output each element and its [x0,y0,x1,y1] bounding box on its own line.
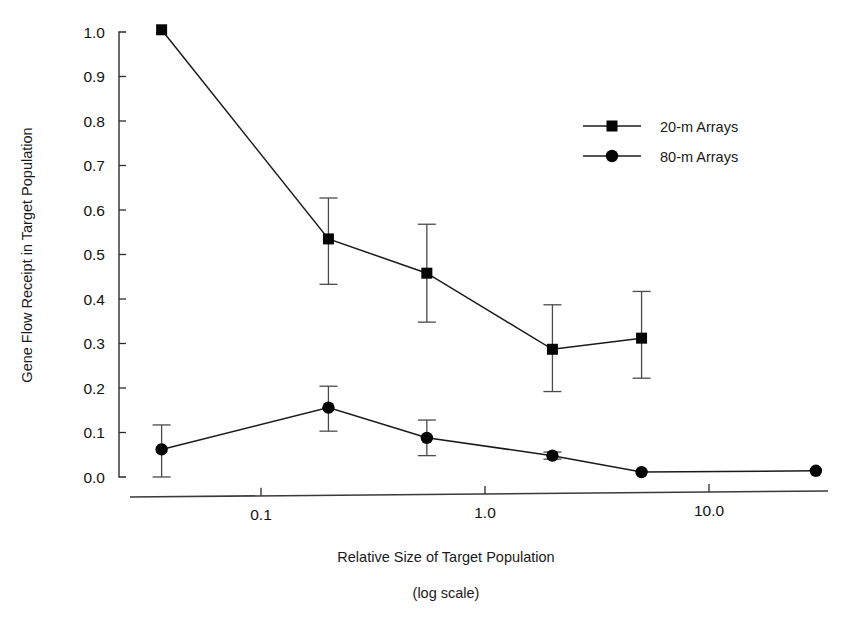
series-80m-arrays [153,386,822,478]
y-tick-label: 1.0 [83,24,105,41]
x-axis: 0.11.010.0 [130,484,828,523]
series-20m-arrays [156,24,650,391]
y-axis-tick-labels: 0.00.10.20.30.40.50.60.70.80.91.0 [83,24,105,486]
y-tick-label: 0.3 [83,335,105,352]
y-axis-tick-marks [119,77,126,433]
x-tick-label: 10.0 [694,502,725,519]
x-tick-label: 1.0 [474,504,496,521]
data-point-square [547,344,558,355]
data-point-circle [546,449,558,461]
data-point-square [421,268,432,279]
y-tick-label: 0.5 [83,246,105,263]
y-axis-title: Gene Flow Receipt in Target Population [19,127,35,382]
legend-item: 20-m Arrays [583,119,738,135]
x-axis-subtitle: (log scale) [413,585,480,601]
legend-marker-square [607,121,618,132]
y-tick-label: 0.4 [83,291,105,308]
y-axis: 0.00.10.20.30.40.50.60.70.80.91.0 [83,24,126,486]
data-point-circle [421,432,433,444]
data-point-square [323,233,334,244]
legend-label: 20-m Arrays [660,119,738,135]
x-tick-label: 0.1 [250,506,272,523]
legend-item: 80-m Arrays [583,149,738,165]
legend-label: 80-m Arrays [660,149,738,165]
y-tick-label: 0.6 [83,202,105,219]
series-line [162,30,642,350]
y-tick-label: 0.0 [83,469,105,486]
legend-marker-circle [606,150,618,162]
x-axis-tick-labels: 0.11.010.0 [250,502,724,523]
data-series-layer [153,24,822,478]
chart-legend: 20-m Arrays80-m Arrays [583,119,738,165]
data-point-square [636,333,647,344]
data-point-circle [322,401,334,413]
x-axis-title: Relative Size of Target Population [337,549,554,565]
y-tick-label: 0.8 [83,113,105,130]
y-tick-label: 0.9 [83,68,105,85]
y-tick-label: 0.7 [83,157,105,174]
data-point-square [156,24,167,35]
x-axis-line [130,491,828,497]
data-point-circle [810,465,822,477]
y-tick-label: 0.1 [83,424,105,441]
data-point-circle [155,443,167,455]
series-line [162,408,816,473]
gene-flow-line-chart: 0.00.10.20.30.40.50.60.70.80.91.0 0.11.0… [0,0,852,622]
y-tick-label: 0.2 [83,380,105,397]
data-point-circle [635,466,647,478]
chart-figure: 0.00.10.20.30.40.50.60.70.80.91.0 0.11.0… [0,0,852,622]
